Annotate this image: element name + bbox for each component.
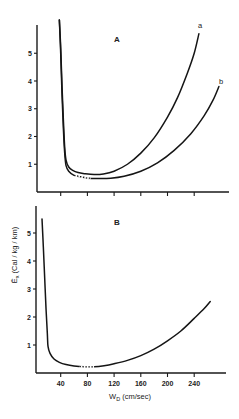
x-tick-label: 80 [84, 380, 92, 387]
panel-a: 12345 A a b [28, 20, 229, 196]
x-tick-label: 200 [162, 380, 174, 387]
curve-a-label: a [198, 21, 203, 30]
y-tick-label: 1 [27, 342, 31, 349]
curve-b-gap [74, 175, 91, 178]
x-axis-label-units: (cm/sec) [120, 392, 151, 401]
y-tick-label: 2 [27, 314, 31, 321]
y-tick-label: 4 [27, 258, 31, 265]
curve-b-label: b [219, 77, 223, 86]
x-tick-label: 240 [188, 380, 200, 387]
y-tick-label: 5 [27, 230, 31, 237]
panel-b: 12345 4080120160200240 B [27, 206, 226, 387]
panel-a-label: A [114, 35, 120, 44]
y-tick-label: 1 [28, 161, 32, 168]
x-axis-label: WD (cm/sec) [109, 392, 151, 402]
curve-B [42, 219, 210, 367]
y-tick-label: 3 [28, 105, 32, 112]
figure: 12345 A a b 12345 4080120160200240 B Ēx … [0, 0, 239, 419]
y-tick-label: 5 [28, 50, 32, 57]
x-tick-label: 40 [57, 380, 65, 387]
panel-b-label: B [114, 218, 120, 227]
y-tick-label: 2 [28, 133, 32, 140]
x-tick-label: 120 [108, 380, 120, 387]
y-tick-label: 4 [28, 78, 32, 85]
y-axis-label-units: (Cal / kg / km) [10, 226, 19, 275]
y-axis-label: Ēx (Cal / kg / km) [10, 226, 20, 283]
curve-a [59, 20, 199, 175]
y-tick-label: 3 [27, 286, 31, 293]
x-tick-label: 160 [135, 380, 147, 387]
